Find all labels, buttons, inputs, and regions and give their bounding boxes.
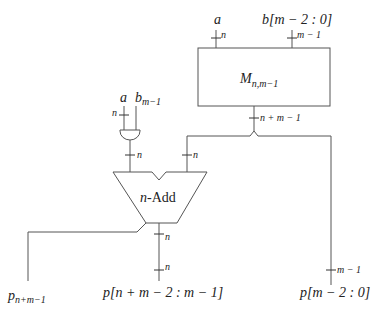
carry-out-wire — [28, 223, 146, 281]
mult-input-b-label: b[m − 2 : 0] — [262, 12, 332, 27]
multiplier-label: Mn,m−1 — [239, 71, 278, 89]
width-label: m − 1 — [337, 264, 361, 275]
width-label: n — [165, 231, 170, 242]
width-label: n — [221, 29, 226, 40]
circuit-diagram: Mn,m−1 a n b[m − 2 : 0] m − 1 n + m − 1 … — [0, 0, 373, 311]
width-label: n — [137, 149, 142, 160]
multiplier-block — [198, 48, 330, 106]
and-input-b-label: bm−1 — [135, 90, 161, 107]
output-p-msb: pn+m−1 — [7, 288, 46, 305]
and-gate — [120, 130, 140, 140]
adder-label: n-Add — [140, 190, 176, 205]
width-label: n + m − 1 — [260, 112, 301, 123]
and-input-a-label: a — [120, 90, 127, 105]
width-label: m − 1 — [297, 29, 321, 40]
width-label: n — [165, 261, 170, 272]
output-p-mid: p[n + m − 2 : m − 1] — [102, 285, 223, 300]
mult-out-low-branch — [254, 131, 331, 285]
width-label: n — [193, 149, 198, 160]
width-label: n — [112, 107, 117, 118]
mult-input-a-label: a — [214, 12, 221, 27]
output-p-low: p[m − 2 : 0] — [299, 285, 370, 300]
